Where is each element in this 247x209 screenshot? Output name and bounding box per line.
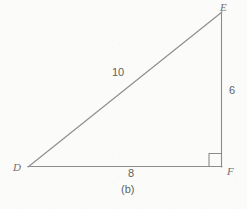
figure-canvas: E D F 10 6 8 (b) xyxy=(0,0,247,209)
triangle-diagram xyxy=(0,0,247,209)
vertex-label-f: F xyxy=(227,166,234,177)
right-angle-marker xyxy=(209,154,222,167)
side-length-df: 8 xyxy=(128,168,134,179)
side-de-line xyxy=(28,12,222,167)
side-length-ef: 6 xyxy=(229,85,235,96)
vertex-label-e: E xyxy=(220,2,227,13)
side-length-de: 10 xyxy=(112,67,124,78)
vertex-label-d: D xyxy=(13,162,21,173)
figure-caption: (b) xyxy=(121,184,134,195)
